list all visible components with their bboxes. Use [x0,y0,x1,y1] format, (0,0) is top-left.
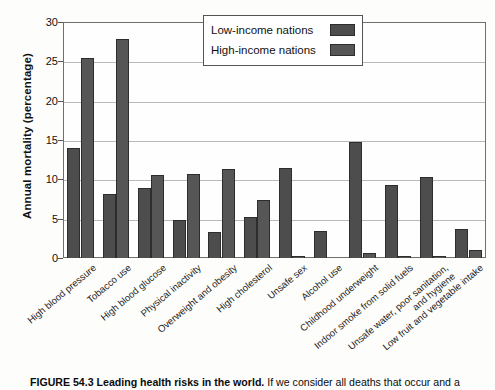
caption-body: If we consider all deaths that occur and… [267,376,460,388]
x-axis-tick-label: Physical inactivity [139,262,204,319]
figure-caption: FIGURE 54.3 Leading health risks in the … [30,376,495,388]
caption-title: Leading health risks in the world. [97,376,265,388]
caption-figure-number: FIGURE 54.3 [30,376,94,388]
x-axis-tick-labels: High blood pressureTobacco useHigh blood… [0,0,495,390]
figure-container: Annual mortality (percentage) 0510152025… [0,0,495,390]
